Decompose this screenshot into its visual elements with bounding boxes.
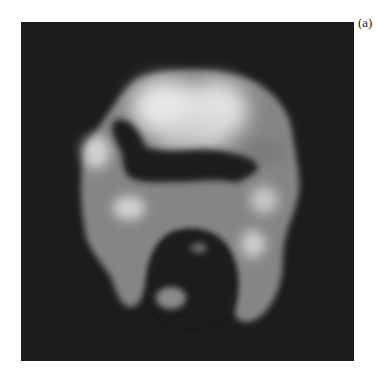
scan-graphic	[21, 22, 354, 361]
scan-image	[21, 22, 354, 361]
panel-label: (a)	[358, 15, 372, 31]
